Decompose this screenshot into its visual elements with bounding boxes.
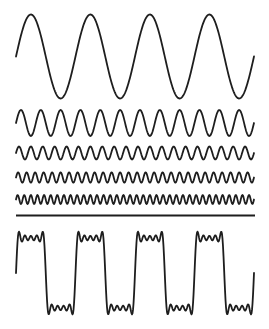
sine-wave-harmonic-5 [16,147,254,160]
square-wave-sum [16,232,254,315]
sine-wave-harmonic-9 [16,195,254,204]
sine-wave-harmonic-7 [16,172,254,182]
fourier-square-wave-diagram [0,0,269,329]
sine-wave-harmonic-1 [16,15,254,99]
sine-wave-harmonic-3 [16,110,254,136]
